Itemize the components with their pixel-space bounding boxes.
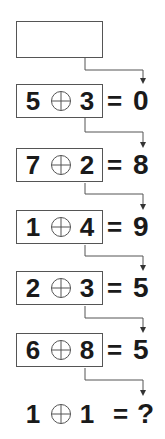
equals-sign: = [113, 397, 128, 431]
operand-a: 5 [22, 84, 44, 118]
operand-a: 6 [22, 333, 44, 367]
operand-a: 7 [22, 148, 44, 182]
result: 8 [133, 148, 149, 182]
equals-sign: = [107, 148, 122, 182]
operand-a: 1 [22, 397, 44, 431]
equation-row-2: 7 2 = 8 [16, 148, 165, 182]
circled-plus-icon [50, 277, 72, 299]
equation-row-4: 2 3 = 5 [16, 271, 165, 305]
result: 9 [133, 210, 149, 244]
operand-b: 1 [76, 397, 98, 431]
result: 5 [133, 333, 149, 367]
operand-a: 2 [22, 271, 44, 305]
equals-sign: = [107, 210, 122, 244]
circled-plus-icon [50, 154, 72, 176]
circled-plus-icon [50, 216, 72, 238]
circled-plus-icon [50, 339, 72, 361]
result: 5 [133, 271, 149, 305]
equation-row-1: 5 3 = 0 [16, 84, 165, 118]
circled-plus-icon [50, 403, 72, 425]
operand-b: 2 [76, 148, 98, 182]
unknown-result: ? [137, 397, 154, 431]
circled-plus-icon [50, 90, 72, 112]
operand-a: 1 [22, 210, 44, 244]
operand-b: 3 [76, 84, 98, 118]
operand-b: 3 [76, 271, 98, 305]
equation-row-3: 1 4 = 9 [16, 210, 165, 244]
empty-box [16, 21, 103, 58]
equals-sign: = [107, 84, 122, 118]
equals-sign: = [107, 271, 122, 305]
result: 0 [133, 84, 149, 118]
operand-b: 8 [76, 333, 98, 367]
equation-row-5: 6 8 = 5 [16, 333, 165, 367]
operand-b: 4 [76, 210, 98, 244]
question-row: 1 1 = ? [16, 397, 165, 431]
equals-sign: = [107, 333, 122, 367]
